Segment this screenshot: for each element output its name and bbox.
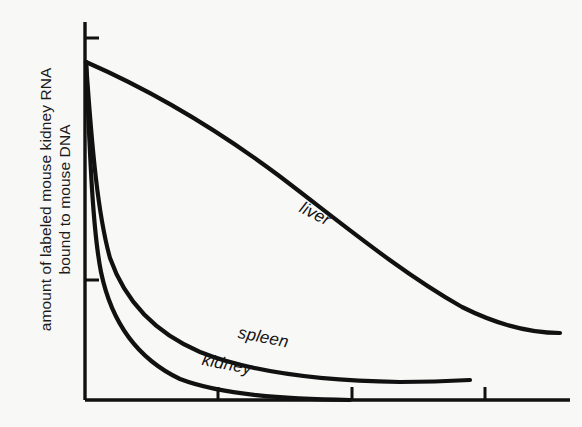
curve-kidney (86, 62, 350, 400)
plot-area (0, 0, 582, 427)
curve-liver (86, 62, 560, 333)
hybridization-figure: amount of labeled mouse kidney RNA bound… (0, 0, 582, 427)
